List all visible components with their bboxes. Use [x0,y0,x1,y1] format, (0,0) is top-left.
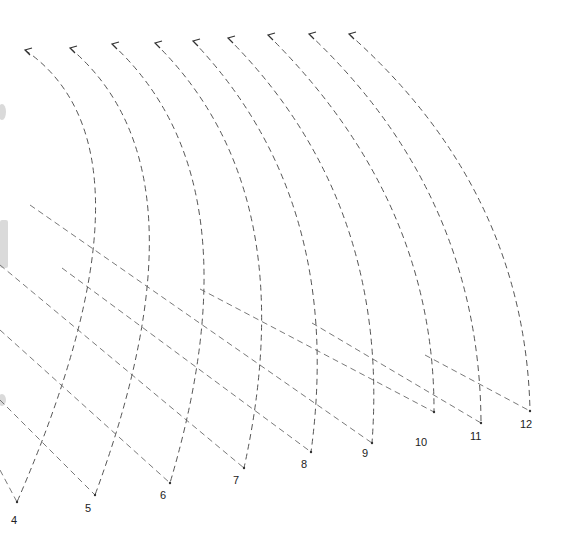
diagonal-line [30,205,372,443]
arc-end-point [433,411,435,413]
arrowhead-icon [268,33,275,40]
arc-label-4: 4 [11,514,17,526]
arc-10 [268,35,434,412]
arrowhead-icon [228,36,235,43]
arc-5 [70,48,149,495]
arcs [16,32,531,503]
arc-end-point [169,482,171,484]
left-edge-smudge [0,104,8,406]
arrowhead-icon [25,48,32,55]
diagonal-line [312,323,481,423]
arrowhead-icon [70,46,77,53]
arc-6 [112,44,204,483]
arrowhead-icon [112,42,119,49]
diagonal-line [0,470,17,502]
arc-diagram: 456789101112 [0,0,575,559]
arc-label-8: 8 [301,458,307,470]
arc-label-6: 6 [160,489,166,501]
arc-end-point [16,501,18,503]
arrowhead-icon [155,41,162,48]
arrowhead-icon [349,32,356,39]
arrowhead-icon [193,39,200,46]
diagonal-line [0,400,95,495]
arc-label-9: 9 [362,447,368,459]
diagonal-line [0,265,244,468]
arc-label-12: 12 [520,418,532,430]
diagonal-line [0,330,170,483]
arrowhead-icon [309,32,316,39]
arc-8 [193,41,317,452]
arc-label-11: 11 [470,430,481,442]
arc-label-7: 7 [233,474,239,486]
arc-9 [228,38,374,443]
arc-12 [349,34,530,411]
arc-4 [17,50,96,502]
arc-labels: 456789101112 [11,418,532,526]
arc-end-point [310,451,312,453]
arc-end-point [243,467,245,469]
arc-end-point [371,442,373,444]
diagonal-line [425,355,530,411]
arc-end-point [529,410,531,412]
arc-label-5: 5 [85,502,91,514]
arc-11 [309,34,481,423]
diagonal-line [62,268,311,452]
arc-end-point [94,494,96,496]
arc-end-point [480,422,482,424]
diagonal-lines [0,205,530,502]
arc-label-10: 10 [415,436,427,448]
